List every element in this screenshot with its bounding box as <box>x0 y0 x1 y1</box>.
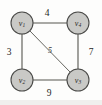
graph-canvas: v1 v4 v2 v3 4 3 7 9 5 <box>0 0 102 105</box>
edge-weight-v1-v2: 3 <box>7 47 12 57</box>
edge-weight-v2-v3: 9 <box>47 88 52 98</box>
edge-weight-v1-v4: 4 <box>45 8 50 18</box>
bottom-band <box>0 100 102 105</box>
graph-figure: v1 v4 v2 v3 4 3 7 9 5 <box>0 0 102 105</box>
edge-weight-v1-v3: 5 <box>48 46 52 55</box>
edge-weight-v4-v3: 7 <box>89 47 94 57</box>
